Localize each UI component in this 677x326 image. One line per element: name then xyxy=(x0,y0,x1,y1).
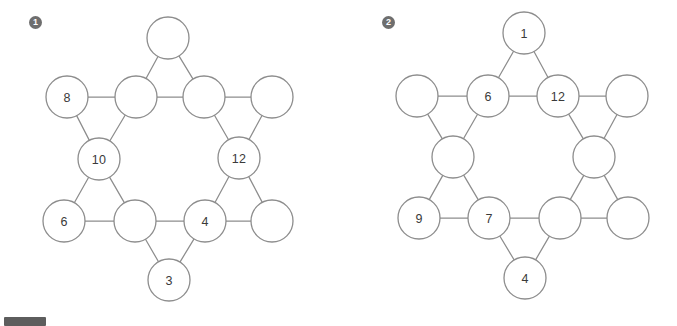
star-node-empty[interactable] xyxy=(573,136,615,178)
star-node-label: 6 xyxy=(60,215,67,229)
star-edge xyxy=(110,177,125,203)
bottom-left-bar xyxy=(4,317,46,326)
star-edge xyxy=(569,114,584,139)
star-node-filled[interactable]: 1 xyxy=(503,12,545,54)
star-edge xyxy=(74,177,88,202)
puzzle-2: 2 1612974 xyxy=(340,0,677,323)
star-node-filled[interactable]: 3 xyxy=(148,259,190,301)
star-edge xyxy=(464,175,479,200)
star-node-circle[interactable] xyxy=(606,75,648,117)
star-edge xyxy=(77,116,90,141)
star-node-label: 7 xyxy=(485,212,492,226)
star-node-empty[interactable] xyxy=(432,136,474,178)
star-node-circle[interactable] xyxy=(396,75,438,117)
star-edge xyxy=(536,236,550,260)
star-node-filled[interactable]: 4 xyxy=(184,200,226,242)
star-edge xyxy=(146,56,158,78)
node-group: 1612974 xyxy=(396,12,649,299)
star-node-filled[interactable]: 9 xyxy=(398,197,440,239)
star-node-label: 3 xyxy=(165,274,172,288)
star-node-label: 6 xyxy=(484,90,491,104)
star-node-filled[interactable]: 12 xyxy=(537,75,579,117)
star-node-filled[interactable]: 10 xyxy=(78,138,120,180)
star-node-label: 4 xyxy=(201,215,208,229)
star-node-empty[interactable] xyxy=(539,197,581,239)
magic-star-diagram: 81012643 xyxy=(0,0,340,323)
star-edge xyxy=(110,115,125,141)
star-node-circle[interactable] xyxy=(114,200,156,242)
star-edge xyxy=(215,176,229,202)
star-edge xyxy=(463,114,477,139)
star-node-label: 12 xyxy=(232,152,246,166)
star-edge xyxy=(249,177,263,203)
star-edge xyxy=(429,175,443,199)
star-node-filled[interactable]: 12 xyxy=(218,137,260,179)
star-node-empty[interactable] xyxy=(147,17,189,59)
star-node-empty[interactable] xyxy=(183,76,225,118)
star-node-circle[interactable] xyxy=(147,17,189,59)
star-node-empty[interactable] xyxy=(114,200,156,242)
star-edge xyxy=(500,236,514,260)
star-node-empty[interactable] xyxy=(606,75,648,117)
star-node-circle[interactable] xyxy=(539,197,581,239)
star-edge xyxy=(534,51,548,77)
star-edge xyxy=(214,115,228,140)
star-node-label: 12 xyxy=(551,90,565,104)
star-node-filled[interactable]: 6 xyxy=(43,200,85,242)
star-node-circle[interactable] xyxy=(115,76,157,118)
star-node-empty[interactable] xyxy=(607,197,649,239)
star-node-circle[interactable] xyxy=(573,136,615,178)
star-edge xyxy=(570,175,584,199)
star-node-filled[interactable]: 7 xyxy=(468,197,510,239)
star-node-label: 9 xyxy=(415,212,422,226)
star-node-label: 8 xyxy=(63,91,70,105)
star-node-filled[interactable]: 6 xyxy=(467,75,509,117)
star-node-empty[interactable] xyxy=(396,75,438,117)
star-edge xyxy=(180,239,194,262)
star-node-label: 4 xyxy=(521,272,528,286)
node-group: 81012643 xyxy=(43,17,293,301)
star-edge xyxy=(145,239,158,262)
star-node-filled[interactable]: 8 xyxy=(46,76,88,118)
star-node-filled[interactable]: 4 xyxy=(504,257,546,299)
star-node-circle[interactable] xyxy=(251,76,293,118)
star-edge xyxy=(498,51,513,78)
star-edge xyxy=(604,175,618,199)
star-node-label: 1 xyxy=(520,27,527,41)
star-node-circle[interactable] xyxy=(607,197,649,239)
star-node-empty[interactable] xyxy=(115,76,157,118)
star-node-circle[interactable] xyxy=(432,136,474,178)
star-edge xyxy=(428,114,443,139)
star-node-empty[interactable] xyxy=(251,76,293,118)
star-node-empty[interactable] xyxy=(251,200,293,242)
puzzle-1: 1 81012643 xyxy=(0,0,340,323)
magic-star-diagram: 1612974 xyxy=(340,0,677,323)
star-node-circle[interactable] xyxy=(251,200,293,242)
star-node-label: 10 xyxy=(92,153,106,167)
star-edge xyxy=(604,114,617,138)
star-edge xyxy=(179,56,193,79)
star-node-circle[interactable] xyxy=(183,76,225,118)
star-edge xyxy=(249,115,262,139)
